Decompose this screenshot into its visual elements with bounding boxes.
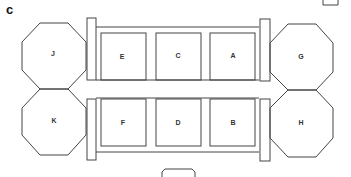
box-c-label: C — [175, 52, 180, 59]
box-a: A — [210, 33, 255, 80]
right-post-top — [260, 19, 270, 81]
box-c: C — [156, 33, 201, 80]
octagon-h: H — [270, 90, 333, 157]
frame-rails — [96, 27, 259, 152]
corner-mark — [323, 0, 338, 5]
octagon-k: K — [22, 89, 86, 155]
octagon-j: J — [22, 23, 86, 89]
octagon-g: G — [270, 24, 333, 90]
box-a-label: A — [230, 52, 235, 59]
octagon-j-label: J — [51, 50, 55, 57]
left-post-bottom — [87, 99, 96, 160]
octagon-k-label: K — [51, 117, 56, 124]
left-post-top — [87, 18, 96, 80]
diagram-canvas: c J K G H E C A — [0, 0, 351, 177]
box-f-label: F — [121, 119, 126, 126]
box-f: F — [101, 99, 146, 146]
box-b-label: B — [230, 119, 235, 126]
bottom-stub — [162, 169, 195, 177]
octagon-g-label: G — [298, 53, 304, 60]
octagon-h-label: H — [298, 119, 303, 126]
box-e-label: E — [120, 53, 125, 60]
box-b: B — [210, 99, 255, 146]
panel-label: c — [6, 2, 13, 17]
box-d-label: D — [175, 119, 180, 126]
box-e: E — [101, 33, 146, 80]
box-d: D — [156, 99, 201, 146]
right-post-bottom — [260, 99, 270, 161]
